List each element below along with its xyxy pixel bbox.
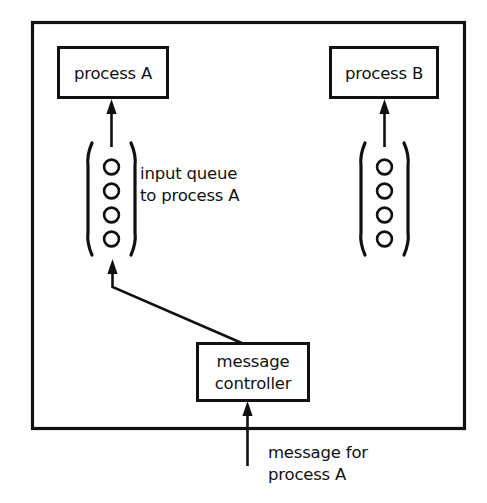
process-b-label: process B [345,64,423,83]
system-diagram: process A process B input queue to proce… [0,0,487,503]
queue-a-slot-3 [104,208,119,223]
queue-a-annotation-line1: input queue [140,164,237,183]
diagram-canvas: process A process B input queue to proce… [0,0,487,503]
process-a-label: process A [74,64,153,83]
queue-a-slot-4 [104,232,119,247]
queue-b-slot-1 [377,160,392,175]
incoming-message-label-line1: message for [268,443,368,462]
message-controller-label-line2: controller [215,374,292,393]
message-controller-label-line1: message [217,352,290,371]
queue-b-slot-3 [377,208,392,223]
queue-a-slot-2 [104,184,119,199]
queue-a-slot-1 [104,160,119,175]
incoming-message-label-line2: process A [268,465,347,484]
queue-b-slot-2 [377,184,392,199]
queue-a-annotation-line2: to process A [140,186,240,205]
queue-b-slot-4 [377,232,392,247]
